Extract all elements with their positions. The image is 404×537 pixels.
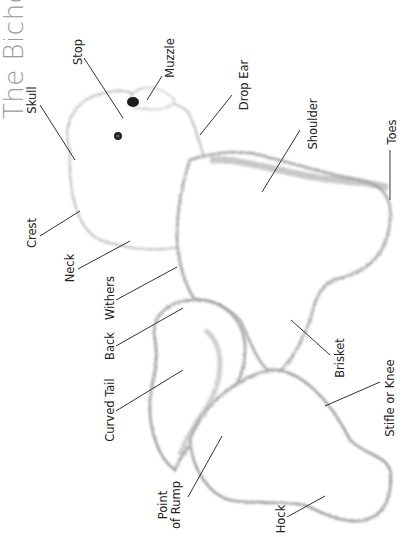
label-withers: Withers — [104, 276, 117, 320]
dog-nose — [127, 97, 139, 107]
label-point-of-rump-line1: Point — [157, 481, 170, 529]
label-stifle-or-knee: Stifle or Knee — [384, 359, 397, 436]
leader-withers — [116, 267, 177, 300]
label-muzzle: Muzzle — [164, 38, 177, 78]
label-skull: Skull — [26, 86, 39, 113]
leader-drop-ear — [200, 95, 232, 135]
label-toes: Toes — [386, 119, 399, 144]
leader-neck — [78, 241, 130, 269]
label-neck: Neck — [64, 254, 77, 283]
label-hock: Hock — [275, 505, 288, 534]
label-crest: Crest — [26, 218, 39, 248]
leader-crest — [40, 211, 80, 236]
label-point-of-rump: Point of Rump — [157, 481, 182, 529]
label-curved-tail: Curved Tail — [104, 378, 117, 441]
illustration-page: The Bicho Skull Stop Muzzle Drop Ear Sho… — [0, 0, 404, 537]
leader-stifle — [325, 382, 380, 406]
dog-illustration — [0, 0, 404, 537]
label-point-of-rump-line2: of Rump — [170, 481, 183, 529]
label-brisket: Brisket — [334, 338, 347, 378]
label-back: Back — [104, 332, 117, 360]
label-stop: Stop — [72, 39, 85, 65]
label-drop-ear: Drop Ear — [238, 60, 251, 110]
label-shoulder: Shoulder — [307, 98, 320, 149]
